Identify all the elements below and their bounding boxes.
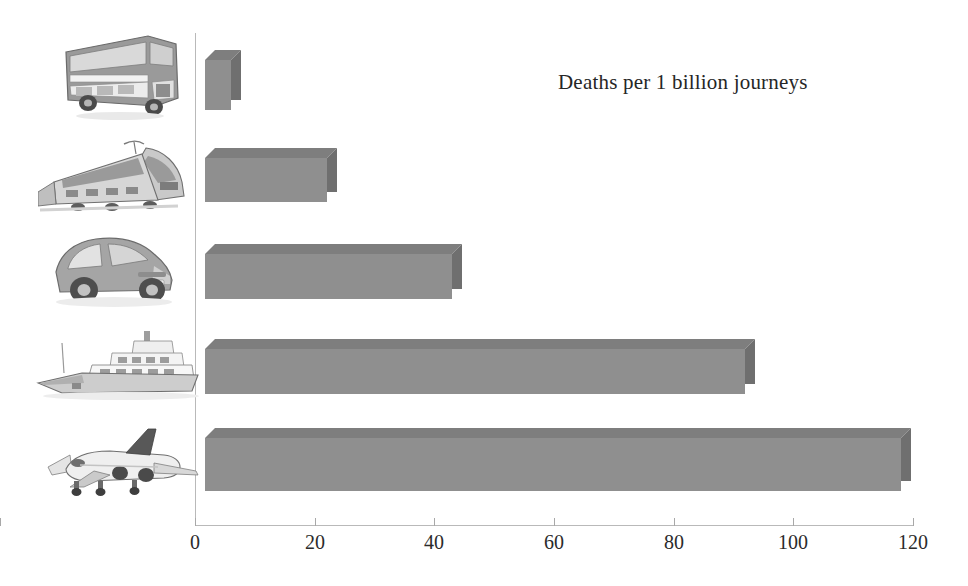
x-tick-label-80: 80 [664,531,684,554]
bar-top-face [205,148,337,158]
x-tick-label-20: 20 [305,531,325,554]
x-tick-mark [434,518,435,526]
chart-container: Deaths per 1 billion journeys 0 20 40 60… [0,0,968,586]
bar-front-face [205,158,327,202]
yacht-ship-icon [26,325,206,405]
bar-train: 22 [205,148,337,202]
high-speed-train-icon [38,138,190,216]
bar-value-train: 22 [205,148,206,149]
x-tick-label-100: 100 [778,531,808,554]
bar-front-face [205,438,901,491]
airplane-icon [28,425,208,510]
bar-front-face [205,349,745,394]
bar-bus: 6 [205,50,241,110]
x-tick-mark [554,518,555,526]
bar-top-face [205,244,462,254]
bar-value-car: 43 [205,244,206,245]
bar-ship: 92 [205,339,755,394]
x-tick-label-0: 0 [190,531,200,554]
x-tick-label-60: 60 [544,531,564,554]
bar-top-face [205,428,911,438]
x-tick-mark [195,518,196,526]
x-tick-mark [0,518,1,526]
x-tick-mark [315,518,316,526]
hatchback-car-icon [34,228,184,308]
bar-value-bus: 6 [205,50,206,51]
x-tick-label-40: 40 [424,531,444,554]
bar-car: 43 [205,244,462,299]
bar-front-face [205,254,452,299]
bar-front-face [205,60,231,110]
x-tick-label-120: 120 [898,531,928,554]
x-tick-mark [913,518,914,526]
double-decker-bus-icon [52,28,187,120]
x-tick-mark [793,518,794,526]
bar-top-face [205,339,755,349]
x-tick-mark [674,518,675,526]
bar-plane: 118 [205,428,911,491]
